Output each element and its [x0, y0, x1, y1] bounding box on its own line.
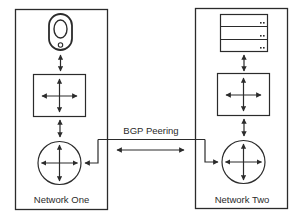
switch-icon [34, 75, 86, 117]
bgp-peering-label: BGP Peering [123, 125, 178, 136]
network-one-border [16, 10, 108, 210]
bgp-link-left-arrow [85, 140, 98, 164]
server-icon [221, 15, 268, 52]
router-icon [222, 141, 265, 184]
network-two-border [196, 9, 288, 209]
bgp-link-right-arrow [205, 140, 218, 163]
router-icon [38, 142, 81, 185]
network-one-label: Network One [34, 194, 89, 205]
switch-icon [218, 74, 270, 116]
network-one-panel: Network One [16, 10, 108, 210]
network-two-panel: Network Two [196, 9, 288, 209]
device-icon [49, 14, 72, 50]
network-two-label: Network Two [215, 194, 270, 205]
bgp-peering-connector: BGP Peering [85, 125, 218, 163]
network-diagram: Network One Network Two [0, 0, 301, 221]
